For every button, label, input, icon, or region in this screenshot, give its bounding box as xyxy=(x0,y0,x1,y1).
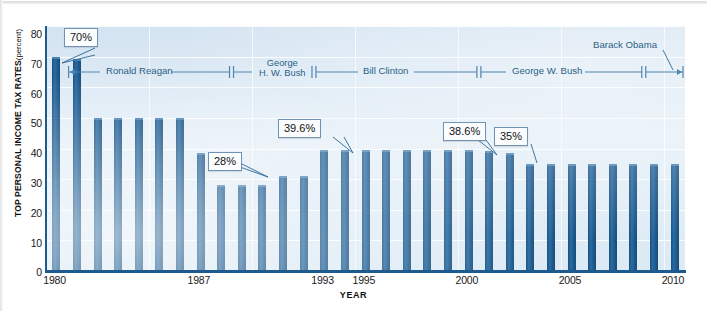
bar-1989 xyxy=(238,185,246,271)
bar-cap xyxy=(52,57,60,59)
bar-cap xyxy=(362,150,370,152)
bar-1982 xyxy=(94,118,102,271)
x-tick-2000: 2000 xyxy=(456,274,479,286)
gridline-vertical xyxy=(458,26,459,271)
x-tick-1980: 1980 xyxy=(43,274,66,286)
bar-cap xyxy=(465,150,473,152)
bar-1995 xyxy=(362,150,370,271)
bar-2004 xyxy=(547,164,555,271)
x-tick-1993: 1993 xyxy=(311,274,334,286)
bar-1980 xyxy=(52,57,60,271)
bar-2008 xyxy=(629,164,637,271)
bar-1991 xyxy=(279,176,287,271)
gridline-vertical xyxy=(149,26,150,271)
bar-cap xyxy=(547,164,555,166)
callout-39-6: 39.6% xyxy=(278,119,321,138)
bar-1987 xyxy=(197,153,205,271)
bar-1984 xyxy=(135,118,143,271)
gridline-horizontal xyxy=(46,57,685,58)
y-axis-line xyxy=(45,26,47,272)
bar-cap xyxy=(73,59,81,61)
x-tick-1995: 1995 xyxy=(353,274,376,286)
bar-cap xyxy=(444,150,452,152)
bar-cap xyxy=(94,118,102,120)
callout-38-6: 38.6% xyxy=(443,122,486,141)
y-tick-10: 10 xyxy=(14,237,42,249)
bar-1998 xyxy=(423,150,431,271)
bar-cap xyxy=(609,164,617,166)
bar-2010 xyxy=(671,164,679,271)
bar-cap xyxy=(279,176,287,178)
bar-cap xyxy=(650,164,658,166)
bar-cap xyxy=(506,153,514,155)
callout-28: 28% xyxy=(208,152,242,171)
bar-1993 xyxy=(320,150,328,271)
y-axis-title: TOP PERSONAL INCOME TAX RATES(percent) xyxy=(13,23,23,223)
x-tick-1987: 1987 xyxy=(188,274,211,286)
bar-2009 xyxy=(650,164,658,271)
bar-1994 xyxy=(341,150,349,271)
bar-cap xyxy=(423,150,431,152)
bar-1992 xyxy=(300,176,308,271)
bar-1981 xyxy=(73,59,81,271)
bar-1999 xyxy=(444,150,452,271)
president-label-reagan: Ronald Reagan xyxy=(106,66,173,76)
y-axis-tick-labels: 0 10 20 30 40 50 60 70 80 xyxy=(6,0,42,311)
bar-1996 xyxy=(382,150,390,271)
scan-edge-left xyxy=(0,0,3,311)
bar-cap xyxy=(485,151,493,153)
gridline-vertical xyxy=(252,26,253,271)
bar-cap xyxy=(568,164,576,166)
bar-1985 xyxy=(155,118,163,271)
president-label-w-bush: George W. Bush xyxy=(512,66,582,76)
callout-35: 35% xyxy=(494,127,528,146)
bar-cap xyxy=(135,118,143,120)
chart-figure: 0 10 20 30 40 50 60 70 80 TOP PERSONAL I… xyxy=(0,0,707,311)
callout-70: 70% xyxy=(64,28,98,47)
bar-1986 xyxy=(176,118,184,271)
gridline-horizontal xyxy=(46,26,685,27)
y-tick-0: 0 xyxy=(14,266,42,278)
y-axis-title-unit: (percent) xyxy=(14,29,23,60)
bar-1988 xyxy=(217,185,225,271)
bar-cap xyxy=(300,176,308,178)
president-label-clinton: Bill Clinton xyxy=(363,66,408,76)
gridline-vertical xyxy=(664,26,665,271)
bar-2001 xyxy=(485,151,493,271)
bar-cap xyxy=(176,118,184,120)
bar-1990 xyxy=(258,185,266,271)
bar-cap xyxy=(155,118,163,120)
bar-cap xyxy=(238,185,246,187)
x-tick-2010: 2010 xyxy=(662,274,685,286)
bar-cap xyxy=(197,153,205,155)
gridline-horizontal xyxy=(46,87,685,88)
bar-cap xyxy=(671,164,679,166)
y-axis-title-main: TOP PERSONAL INCOME TAX RATES xyxy=(13,60,23,217)
bar-cap xyxy=(403,150,411,152)
bar-cap xyxy=(320,150,328,152)
president-label-obama: Barack Obama xyxy=(593,40,657,50)
bar-cap xyxy=(217,185,225,187)
bar-cap xyxy=(382,150,390,152)
bar-cap xyxy=(629,164,637,166)
scan-edge-top xyxy=(0,1,707,4)
bar-2006 xyxy=(588,164,596,271)
bar-1983 xyxy=(114,118,122,271)
bar-cap xyxy=(341,150,349,152)
bar-2003 xyxy=(526,164,534,271)
bar-2002 xyxy=(506,153,514,271)
bar-1997 xyxy=(403,150,411,271)
bar-cap xyxy=(588,164,596,166)
bar-2007 xyxy=(609,164,617,271)
gridline-vertical xyxy=(561,26,562,271)
gridline-vertical xyxy=(355,26,356,271)
president-label-hw-bush-line2: H. W. Bush xyxy=(259,69,306,79)
bar-2000 xyxy=(465,150,473,271)
x-axis-line xyxy=(45,270,686,273)
president-label-hw-bush: George H. W. Bush xyxy=(259,59,306,79)
x-tick-2005: 2005 xyxy=(559,274,582,286)
bar-2005 xyxy=(568,164,576,271)
bar-cap xyxy=(258,185,266,187)
bar-cap xyxy=(114,118,122,120)
plot-area xyxy=(46,26,685,271)
